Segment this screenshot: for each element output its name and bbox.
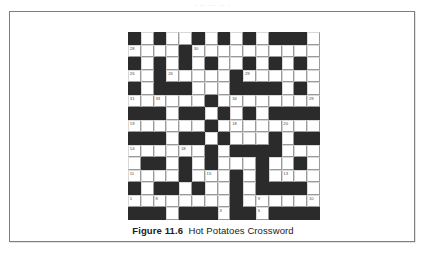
crossword-letter-cell[interactable] [179, 32, 192, 45]
crossword-letter-cell[interactable] [192, 120, 205, 133]
crossword-letter-cell[interactable] [218, 57, 231, 70]
crossword-letter-cell[interactable]: 30 [192, 45, 205, 58]
crossword-letter-cell[interactable] [205, 195, 218, 208]
crossword-letter-cell[interactable] [154, 120, 167, 133]
crossword-letter-cell[interactable] [192, 145, 205, 158]
crossword-letter-cell[interactable] [166, 120, 179, 133]
crossword-letter-cell[interactable] [166, 145, 179, 158]
crossword-letter-cell[interactable] [141, 57, 154, 70]
crossword-letter-cell[interactable] [179, 120, 192, 133]
crossword-letter-cell[interactable] [166, 132, 179, 145]
crossword-letter-cell[interactable] [192, 70, 205, 83]
crossword-letter-cell[interactable]: 18 [230, 120, 243, 133]
crossword-letter-cell[interactable] [166, 195, 179, 208]
crossword-letter-cell[interactable] [282, 132, 295, 145]
crossword-letter-cell[interactable] [269, 120, 282, 133]
crossword-letter-cell[interactable]: 34 [230, 95, 243, 108]
crossword-letter-cell[interactable] [218, 182, 231, 195]
crossword-letter-cell[interactable] [307, 182, 320, 195]
crossword-letter-cell[interactable] [179, 182, 192, 195]
crossword-letter-cell[interactable] [307, 120, 320, 133]
crossword-letter-cell[interactable]: 29 [307, 95, 320, 108]
crossword-letter-cell[interactable]: 28 [128, 45, 141, 58]
crossword-letter-cell[interactable] [166, 32, 179, 45]
crossword-letter-cell[interactable] [256, 120, 269, 133]
crossword-letter-cell[interactable] [294, 95, 307, 108]
crossword-letter-cell[interactable] [269, 95, 282, 108]
crossword-letter-cell[interactable] [154, 170, 167, 183]
crossword-letter-cell[interactable] [230, 157, 243, 170]
crossword-letter-cell[interactable]: 13 [282, 170, 295, 183]
crossword-letter-cell[interactable]: 26 [128, 70, 141, 83]
crossword-letter-cell[interactable]: 3 [218, 207, 231, 220]
crossword-letter-cell[interactable] [218, 195, 231, 208]
crossword-letter-cell[interactable]: 18 [179, 145, 192, 158]
crossword-letter-cell[interactable] [218, 170, 231, 183]
crossword-letter-cell[interactable] [243, 195, 256, 208]
crossword-letter-cell[interactable]: 19 [128, 120, 141, 133]
crossword-letter-cell[interactable]: 20 [282, 120, 295, 133]
crossword-letter-cell[interactable]: 1 [128, 195, 141, 208]
crossword-letter-cell[interactable] [294, 120, 307, 133]
crossword-letter-cell[interactable] [218, 145, 231, 158]
crossword-letter-cell[interactable] [205, 107, 218, 120]
crossword-letter-cell[interactable] [166, 95, 179, 108]
crossword-letter-cell[interactable] [307, 170, 320, 183]
crossword-letter-cell[interactable] [282, 95, 295, 108]
crossword-letter-cell[interactable] [256, 32, 269, 45]
crossword-letter-cell[interactable] [192, 95, 205, 108]
crossword-letter-cell[interactable] [141, 45, 154, 58]
crossword-letter-cell[interactable] [269, 195, 282, 208]
crossword-letter-cell[interactable] [141, 145, 154, 158]
crossword-letter-cell[interactable] [154, 45, 167, 58]
crossword-letter-cell[interactable] [243, 157, 256, 170]
crossword-letter-cell[interactable] [269, 170, 282, 183]
crossword-letter-cell[interactable] [230, 32, 243, 45]
crossword-letter-cell[interactable] [243, 45, 256, 58]
crossword-letter-cell[interactable] [230, 132, 243, 145]
crossword-letter-cell[interactable] [154, 145, 167, 158]
crossword-letter-cell[interactable] [282, 70, 295, 83]
crossword-letter-cell[interactable]: 9 [256, 195, 269, 208]
crossword-letter-cell[interactable] [269, 70, 282, 83]
crossword-letter-cell[interactable] [282, 157, 295, 170]
crossword-letter-cell[interactable] [230, 45, 243, 58]
crossword-letter-cell[interactable] [307, 32, 320, 45]
crossword-letter-cell[interactable] [166, 207, 179, 220]
crossword-letter-cell[interactable] [256, 45, 269, 58]
crossword-letter-cell[interactable] [282, 45, 295, 58]
crossword-letter-cell[interactable] [294, 45, 307, 58]
crossword-letter-cell[interactable]: 11 [128, 170, 141, 183]
crossword-letter-cell[interactable] [218, 45, 231, 58]
crossword-letter-cell[interactable]: 29 [243, 70, 256, 83]
crossword-letter-cell[interactable] [205, 70, 218, 83]
crossword-letter-cell[interactable] [256, 70, 269, 83]
crossword-letter-cell[interactable] [205, 182, 218, 195]
crossword-letter-cell[interactable] [218, 120, 231, 133]
crossword-letter-cell[interactable] [141, 95, 154, 108]
crossword-letter-cell[interactable] [128, 157, 141, 170]
crossword-letter-cell[interactable] [141, 82, 154, 95]
crossword-letter-cell[interactable] [205, 32, 218, 45]
crossword-letter-cell[interactable] [282, 82, 295, 95]
crossword-letter-cell[interactable] [192, 170, 205, 183]
crossword-letter-cell[interactable] [166, 157, 179, 170]
crossword-letter-cell[interactable] [166, 170, 179, 183]
crossword-letter-cell[interactable] [269, 157, 282, 170]
crossword-letter-cell[interactable] [192, 82, 205, 95]
crossword-letter-cell[interactable] [192, 195, 205, 208]
crossword-letter-cell[interactable] [307, 82, 320, 95]
crossword-letter-cell[interactable] [205, 132, 218, 145]
crossword-letter-cell[interactable] [243, 182, 256, 195]
crossword-letter-cell[interactable] [256, 57, 269, 70]
crossword-letter-cell[interactable] [307, 145, 320, 158]
crossword-letter-cell[interactable] [230, 57, 243, 70]
crossword-letter-cell[interactable] [166, 57, 179, 70]
crossword-letter-cell[interactable]: 33 [154, 95, 167, 108]
crossword-letter-cell[interactable] [141, 170, 154, 183]
crossword-letter-cell[interactable] [218, 70, 231, 83]
crossword-letter-cell[interactable] [205, 45, 218, 58]
crossword-letter-cell[interactable] [307, 70, 320, 83]
crossword-letter-cell[interactable] [166, 107, 179, 120]
crossword-letter-cell[interactable] [256, 132, 269, 145]
